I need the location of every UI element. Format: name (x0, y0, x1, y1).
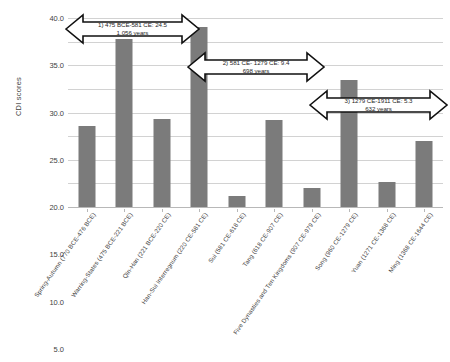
annotation-1: 1) 475 BCE-581 CE: 24.5 1,056 years (66, 13, 199, 45)
x-axis-tick-mark (274, 209, 275, 212)
x-axis-tick-label: Warring-States (475 BCE-221 BCE) (70, 211, 134, 298)
annotation-3-line2: 632 years (310, 105, 447, 112)
x-axis-tick-mark (199, 209, 200, 212)
x-axis-tick-mark (349, 209, 350, 212)
x-axis-tick-label: Spring-Autumn (770 BCE-476 BCE) (32, 211, 96, 298)
y-axis-tick-label: 5.0 (54, 344, 64, 353)
bar (416, 141, 433, 207)
x-axis-tick-mark (387, 209, 388, 212)
bar (116, 39, 133, 207)
y-axis-tick-label: 20.0 (49, 203, 64, 212)
y-axis-tick-label: 25.0 (49, 155, 64, 164)
annotation-3-line1: 3) 1279 CE-1911 CE: 5.3 (310, 97, 447, 104)
bar-chart: CDI scores 0.05.010.015.020.025.030.035.… (0, 0, 450, 362)
x-axis-tick-mark (312, 209, 313, 212)
annotation-1-line1: 1) 475 BCE-581 CE: 24.5 (66, 21, 199, 28)
x-axis-tick-label: Five Dynasties and Ten Kingdoms (907 CE-… (231, 211, 321, 336)
x-axis-tick-mark (87, 209, 88, 212)
annotation-2-line1: 2) 581 CE- 1279 CE: 9.4 (188, 59, 324, 66)
bar (378, 182, 395, 207)
x-axis-tick-mark (237, 209, 238, 212)
x-axis-tick-mark (424, 209, 425, 212)
y-axis-tick-label: 30.0 (49, 108, 64, 117)
x-axis-tick-label: Sui (581 CE-618 CE) (206, 211, 246, 264)
bar (266, 120, 283, 207)
x-axis-labels: Spring-Autumn (770 BCE-476 BCE)Warring-S… (68, 209, 443, 359)
annotation-2: 2) 581 CE- 1279 CE: 9.4 698 years (188, 51, 324, 83)
y-axis-tick-label: 35.0 (49, 61, 64, 70)
annotation-3: 3) 1279 CE-1911 CE: 5.3 632 years (310, 89, 447, 121)
x-axis-tick-label: Han-Sui Interregnum (220 CE-581 CE) (140, 211, 209, 305)
bar (78, 126, 95, 207)
annotation-2-line2: 698 years (188, 67, 324, 74)
x-axis-tick-label: Tang (618 CE-907 CE) (241, 211, 284, 268)
y-axis-tick-label: 40.0 (49, 14, 64, 23)
bar (228, 196, 245, 207)
x-axis-tick-label: Song (960 CE-1279 CE) (314, 211, 359, 272)
bar (303, 188, 320, 207)
x-axis-tick-label: Ming (1368 CE-1644 CE) (387, 211, 434, 274)
y-axis-title: CDI scores (14, 57, 23, 137)
y-axis-tick-label: 10.0 (49, 297, 64, 306)
bar (153, 119, 170, 207)
x-axis-tick-mark (124, 209, 125, 212)
annotation-1-line2: 1,056 years (66, 29, 199, 36)
x-axis-tick-mark (162, 209, 163, 212)
